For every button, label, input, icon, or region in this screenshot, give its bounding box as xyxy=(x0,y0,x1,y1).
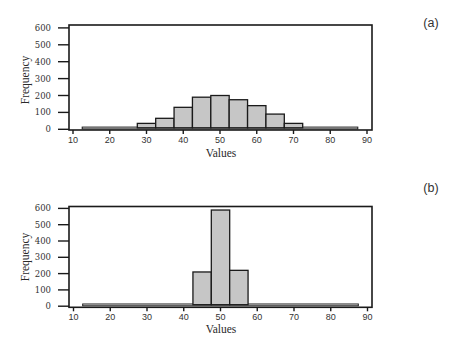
y-tick-label: 400 xyxy=(35,236,51,246)
panel-label-b: (b) xyxy=(423,181,438,195)
histogram-panel-a: 0100200300400500600 102030405060708090 F… xyxy=(19,16,439,159)
y-axis-label-b: Frequency xyxy=(19,232,32,281)
histogram-bar xyxy=(211,96,229,128)
x-tick-label: 80 xyxy=(326,312,336,322)
histogram-bar xyxy=(248,106,266,128)
histogram-figure: 0100200300400500600 102030405060708090 F… xyxy=(0,0,461,347)
x-tick-label: 70 xyxy=(289,312,299,322)
x-tick-label: 90 xyxy=(362,135,372,145)
histogram-bar xyxy=(229,100,247,128)
y-tick-label: 600 xyxy=(35,203,51,213)
histogram-bar xyxy=(156,118,174,127)
histogram-bar xyxy=(137,123,155,127)
histogram-panel-b: 0100200300400500600 102030405060708090 F… xyxy=(19,181,439,335)
y-tick-label: 200 xyxy=(35,269,51,279)
y-axis-a: 0100200300400500600 xyxy=(35,23,69,134)
x-tick-label: 40 xyxy=(179,312,189,322)
histogram-bar xyxy=(174,107,192,127)
x-tick-label: 60 xyxy=(252,135,262,145)
histogram-bar xyxy=(266,114,284,128)
panel-label-a: (a) xyxy=(423,16,438,30)
y-axis-b: 0100200300400500600 xyxy=(35,203,69,311)
x-tick-label: 50 xyxy=(215,135,225,145)
x-tick-label: 40 xyxy=(178,135,188,145)
x-tick-label: 50 xyxy=(215,312,225,322)
x-axis-a: 102030405060708090 xyxy=(68,130,372,145)
x-tick-label: 70 xyxy=(288,135,298,145)
histogram-bar xyxy=(284,123,302,127)
histogram-bar xyxy=(230,270,248,304)
x-axis-label-a: Values xyxy=(206,147,237,159)
y-tick-label: 500 xyxy=(35,220,51,230)
x-axis-label-b: Values xyxy=(206,323,237,335)
histogram-bar xyxy=(211,210,229,305)
y-tick-label: 200 xyxy=(35,91,51,101)
y-tick-label: 400 xyxy=(35,57,51,67)
y-tick-label: 0 xyxy=(46,124,51,134)
y-tick-label: 100 xyxy=(35,285,51,295)
y-tick-label: 300 xyxy=(35,252,51,262)
bars-a xyxy=(82,96,358,129)
x-tick-label: 30 xyxy=(142,312,152,322)
y-tick-label: 100 xyxy=(35,107,51,117)
x-tick-label: 10 xyxy=(68,312,78,322)
y-tick-label: 600 xyxy=(35,23,51,33)
x-tick-label: 30 xyxy=(141,135,151,145)
x-tick-label: 60 xyxy=(252,312,262,322)
x-tick-label: 80 xyxy=(325,135,335,145)
y-tick-label: 500 xyxy=(35,40,51,50)
y-tick-label: 300 xyxy=(35,74,51,84)
histogram-bar xyxy=(193,272,211,305)
y-axis-label-a: Frequency xyxy=(19,55,32,104)
x-tick-label: 90 xyxy=(362,312,372,322)
x-tick-label: 10 xyxy=(68,135,78,145)
histogram-bar xyxy=(192,97,210,128)
x-axis-b: 102030405060708090 xyxy=(68,307,372,322)
x-tick-label: 20 xyxy=(105,135,115,145)
y-tick-label: 0 xyxy=(46,301,51,311)
bars-b xyxy=(83,210,359,306)
x-tick-label: 20 xyxy=(105,312,115,322)
